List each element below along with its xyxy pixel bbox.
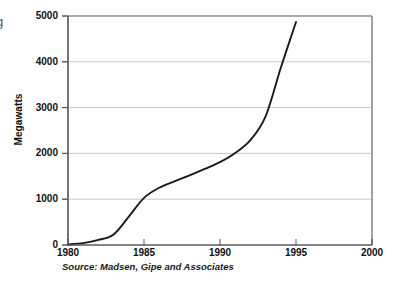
x-tick-label-1990: 1990	[198, 247, 242, 258]
source-caption: Source: Madsen, Gipe and Associates	[62, 261, 234, 272]
y-axis-ticks-final	[62, 16, 68, 245]
y-tick-label-1000: 1000	[24, 193, 58, 204]
x-tick-label-2000: 2000	[350, 247, 394, 258]
y-tick-label-3000: 3000	[24, 102, 58, 113]
plot-frame-final	[68, 16, 372, 245]
wind-capacity-chart-figure: g	[0, 0, 403, 286]
y-tick-label-2000: 2000	[24, 147, 58, 158]
x-tick-label-1980: 1980	[46, 247, 90, 258]
x-tick-label-1985: 1985	[122, 247, 166, 258]
x-axis-ticks-final	[68, 239, 372, 245]
x-tick-label-1995: 1995	[274, 247, 318, 258]
y-tick-label-5000: 5000	[24, 10, 58, 21]
y-axis-title: Megawatts	[13, 85, 24, 155]
y-tick-label-4000: 4000	[24, 56, 58, 67]
chart-axes-overlay	[0, 0, 403, 286]
